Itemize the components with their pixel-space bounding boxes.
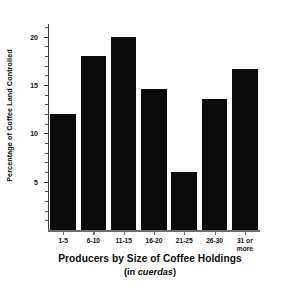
bar-31-or-more xyxy=(232,69,258,230)
x-tick-label-6-10: 6-10 xyxy=(87,237,100,245)
x-axis-title-sub: (in cuerdas) xyxy=(20,267,280,277)
bar-1-5 xyxy=(50,114,76,230)
y-axis-line xyxy=(48,24,49,230)
y-tick-5: 5 xyxy=(44,182,49,183)
y-minor-tick xyxy=(45,191,48,192)
y-minor-tick xyxy=(45,46,48,47)
bar-11-15 xyxy=(111,37,137,230)
y-minor-tick xyxy=(45,95,48,96)
x-tick xyxy=(93,231,94,235)
y-minor-tick xyxy=(45,75,48,76)
x-tick xyxy=(245,231,246,235)
y-tick-20: 20 xyxy=(44,37,49,38)
bar-6-10 xyxy=(81,56,107,230)
y-minor-tick xyxy=(45,172,48,173)
y-minor-tick xyxy=(45,143,48,144)
plot-area: 5101520 1-56-1011-1516-2021-2526-3031 or… xyxy=(48,24,260,230)
y-minor-tick xyxy=(45,66,48,67)
x-axis-title-sub-emphasis: cuerdas xyxy=(138,267,173,277)
y-tick-label-20: 20 xyxy=(30,33,38,40)
x-tick xyxy=(154,231,155,235)
x-tick xyxy=(63,231,64,235)
bar-16-20 xyxy=(141,89,167,230)
y-tick-label-15: 15 xyxy=(30,81,38,88)
y-tick-15: 15 xyxy=(44,85,49,86)
x-tick-label-11-15: 11-15 xyxy=(115,237,132,245)
y-tick-label-10: 10 xyxy=(30,130,38,137)
y-minor-tick xyxy=(45,220,48,221)
y-minor-tick xyxy=(45,153,48,154)
x-axis-title-main: Producers by Size of Coffee Holdings xyxy=(20,253,280,264)
y-minor-tick xyxy=(45,56,48,57)
x-axis-title-sub-suffix: ) xyxy=(173,267,176,277)
x-tick-label-1-5: 1-5 xyxy=(58,237,68,245)
y-minor-tick xyxy=(45,114,48,115)
y-minor-tick xyxy=(45,124,48,125)
y-tick-10: 10 xyxy=(44,133,49,134)
x-tick xyxy=(124,231,125,235)
x-tick xyxy=(184,231,185,235)
y-tick-label-5: 5 xyxy=(34,178,38,185)
y-minor-tick xyxy=(45,211,48,212)
y-minor-tick xyxy=(45,104,48,105)
x-axis-title: Producers by Size of Coffee Holdings (in… xyxy=(20,253,280,277)
y-minor-tick xyxy=(45,27,48,28)
y-axis-title-text: Percentage of Coffee Land Controlled xyxy=(5,49,14,182)
x-tick-label-16-20: 16-20 xyxy=(146,237,163,245)
x-tick-label-26-30: 26-30 xyxy=(206,237,223,245)
y-axis-title: Percentage of Coffee Land Controlled xyxy=(0,0,18,230)
x-tick-label-21-25: 21-25 xyxy=(176,237,193,245)
y-minor-tick xyxy=(45,201,48,202)
x-tick xyxy=(215,231,216,235)
bar-21-25 xyxy=(171,172,197,230)
bar-chart-figure: Percentage of Coffee Land Controlled 510… xyxy=(0,0,297,293)
x-axis-title-sub-prefix: (in xyxy=(124,267,138,277)
bar-26-30 xyxy=(202,99,228,230)
y-minor-tick xyxy=(45,162,48,163)
x-tick-label-31-or-more: 31 or more xyxy=(237,237,253,253)
